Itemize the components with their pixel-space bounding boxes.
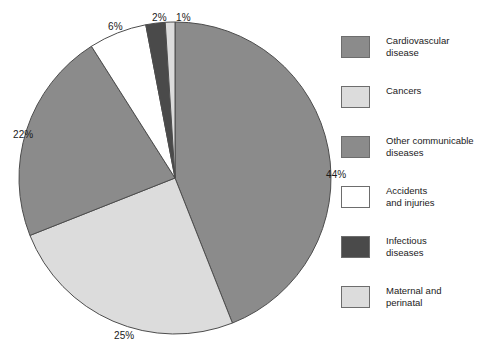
legend-item-maternal-and-perinatal[interactable]: Maternal and perinatal (341, 286, 488, 336)
legend-label-cardiovascular-disease: Cardiovascular disease (386, 35, 488, 59)
legend-label-line2: perinatal (386, 297, 488, 309)
legend-item-cardiovascular-disease[interactable]: Cardiovascular disease (341, 36, 488, 86)
legend-item-cancers[interactable]: Cancers (341, 86, 488, 136)
legend-item-other-communicable-diseases[interactable]: Other communicable diseases (341, 136, 488, 186)
legend-item-accidents-and-injuries[interactable]: Accidents and injuries (341, 186, 488, 236)
legend-swatch-cardiovascular-disease (341, 36, 370, 58)
chart-legend: Cardiovascular disease Cancers Other com… (341, 36, 488, 336)
legend-label-line1: Cardiovascular (386, 35, 488, 47)
legend-label-line2: diseases (386, 247, 488, 259)
legend-swatch-cancers (341, 86, 370, 108)
legend-label-infectious-diseases: Infectious diseases (386, 235, 488, 259)
legend-label-line1: Other communicable (386, 135, 488, 147)
legend-label-line2: and injuries (386, 197, 488, 209)
pie-value-label-infectious-diseases: 2% (152, 12, 167, 23)
legend-label-accidents-and-injuries: Accidents and injuries (386, 185, 488, 209)
legend-label-line1: Accidents (386, 185, 488, 197)
legend-swatch-infectious-diseases (341, 236, 370, 258)
pie-value-label-other-communicable-diseases: 22% (13, 129, 33, 140)
legend-label-line2: diseases (386, 147, 488, 159)
legend-label-line1: Maternal and (386, 285, 488, 297)
legend-label-cancers: Cancers (386, 85, 488, 97)
legend-label-line2: disease (386, 47, 488, 59)
pie-slices (19, 22, 331, 334)
legend-label-maternal-and-perinatal: Maternal and perinatal (386, 285, 488, 309)
legend-item-infectious-diseases[interactable]: Infectious diseases (341, 236, 488, 286)
legend-swatch-other-communicable-diseases (341, 136, 370, 158)
pie-value-label-maternal-and-perinatal: 1% (176, 12, 191, 23)
legend-label-line1: Infectious (386, 235, 488, 247)
pie-value-label-cancers: 25% (114, 330, 134, 341)
legend-swatch-accidents-and-injuries (341, 186, 370, 208)
pie-value-label-accidents-and-injuries: 6% (108, 21, 123, 32)
legend-label-line1: Cancers (386, 85, 488, 97)
legend-swatch-maternal-and-perinatal (341, 286, 370, 308)
pie-chart-figure: 44% 25% 22% 6% 2% 1% Cardiovascular dise… (0, 0, 488, 351)
legend-label-other-communicable-diseases: Other communicable diseases (386, 135, 488, 159)
